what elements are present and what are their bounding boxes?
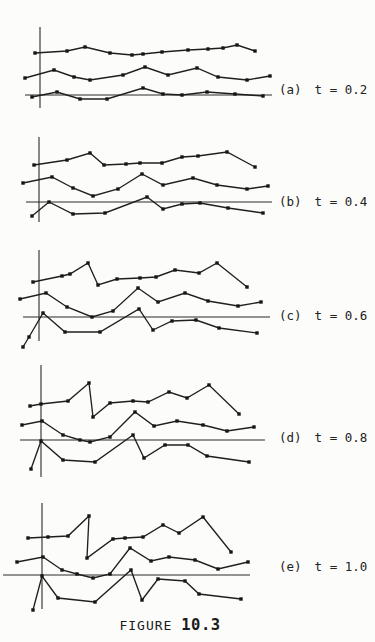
data-point-marker xyxy=(226,206,229,209)
panel-label-d: (d)t = 0.8 xyxy=(279,429,367,446)
data-point-marker xyxy=(207,383,210,386)
panel-a xyxy=(23,27,272,108)
data-point-marker xyxy=(26,536,29,539)
data-point-marker xyxy=(239,597,242,600)
data-point-marker xyxy=(91,194,94,197)
data-point-marker xyxy=(71,186,74,189)
data-point-marker xyxy=(173,268,176,271)
data-point-marker xyxy=(31,608,34,611)
data-point-marker xyxy=(237,412,240,415)
data-point-marker xyxy=(88,151,91,154)
data-point-marker xyxy=(259,300,262,303)
data-point-marker xyxy=(103,211,106,214)
data-point-marker xyxy=(216,567,219,570)
data-point-marker xyxy=(141,86,144,89)
panel-label-b: (b)t = 0.4 xyxy=(279,193,367,210)
data-point-marker xyxy=(52,68,55,71)
data-point-marker xyxy=(90,315,93,318)
data-point-marker xyxy=(206,299,209,302)
data-point-marker xyxy=(15,560,18,563)
sample-path-3-line xyxy=(32,88,263,99)
data-point-marker xyxy=(247,460,250,463)
data-point-marker xyxy=(167,390,170,393)
data-point-marker xyxy=(86,261,89,264)
data-point-marker xyxy=(93,600,96,603)
sample-path-2-line xyxy=(20,288,261,317)
data-point-marker xyxy=(245,187,248,190)
data-point-marker xyxy=(194,318,197,321)
panel-label-c: (c)t = 0.6 xyxy=(279,307,367,324)
data-point-marker xyxy=(160,161,163,164)
data-point-marker xyxy=(177,531,180,534)
data-point-marker xyxy=(233,92,236,95)
data-point-marker xyxy=(65,305,68,308)
data-point-marker xyxy=(23,76,26,79)
data-point-marker xyxy=(201,423,204,426)
data-point-marker xyxy=(191,176,194,179)
data-point-marker xyxy=(225,429,228,432)
data-point-marker xyxy=(21,345,24,348)
data-point-marker xyxy=(146,400,149,403)
data-point-marker xyxy=(61,433,64,436)
data-point-marker xyxy=(142,456,145,459)
panel-label-e: (e)t = 1.0 xyxy=(279,558,367,575)
data-point-marker xyxy=(235,43,238,46)
panel-tag-b: (b) xyxy=(279,194,302,209)
data-point-marker xyxy=(88,440,91,443)
sample-path-1-line xyxy=(33,263,247,287)
data-point-marker xyxy=(50,175,53,178)
data-point-marker xyxy=(137,307,140,310)
data-point-marker xyxy=(98,330,101,333)
data-point-marker xyxy=(41,555,44,558)
data-point-marker xyxy=(88,78,91,81)
data-point-marker xyxy=(268,74,271,77)
data-point-marker xyxy=(193,558,196,561)
panel-tag-a: (a) xyxy=(279,82,302,97)
data-point-marker xyxy=(160,50,163,53)
data-point-marker xyxy=(216,75,219,78)
data-point-marker xyxy=(131,399,134,402)
data-point-marker xyxy=(33,51,36,54)
data-point-marker xyxy=(27,335,30,338)
data-point-marker xyxy=(108,401,111,404)
panel-tag-c: (c) xyxy=(279,308,302,323)
data-point-marker xyxy=(246,560,249,563)
data-point-marker xyxy=(161,207,164,210)
data-point-marker xyxy=(143,65,146,68)
data-point-marker xyxy=(140,598,143,601)
data-point-marker xyxy=(266,184,269,187)
data-point-marker xyxy=(149,559,152,562)
data-point-marker xyxy=(60,274,63,277)
data-point-marker xyxy=(156,300,159,303)
data-point-marker xyxy=(83,45,86,48)
panel-c xyxy=(18,250,270,349)
figure-page: (a)t = 0.2 (b)t = 0.4 (c)t = 0.6 (d)t = … xyxy=(0,0,375,642)
data-point-marker xyxy=(63,330,66,333)
data-point-marker xyxy=(108,435,111,438)
data-point-marker xyxy=(186,48,189,51)
data-point-marker xyxy=(195,66,198,69)
data-point-marker xyxy=(111,537,114,540)
data-point-marker xyxy=(170,319,173,322)
data-point-marker xyxy=(72,75,75,78)
panel-t-value-c: t = 0.6 xyxy=(315,308,368,323)
data-point-marker xyxy=(253,165,256,168)
data-point-marker xyxy=(115,277,118,280)
sample-path-3-line xyxy=(33,570,241,610)
data-point-marker xyxy=(180,155,183,158)
data-point-marker xyxy=(66,399,69,402)
data-point-marker xyxy=(32,163,35,166)
data-point-marker xyxy=(78,97,81,100)
data-point-marker xyxy=(205,454,208,457)
data-point-marker xyxy=(252,425,255,428)
data-point-marker xyxy=(66,534,69,537)
panel-t-value-d: t = 0.8 xyxy=(315,430,368,445)
panel-b xyxy=(21,137,272,222)
data-point-marker xyxy=(136,286,139,289)
data-point-marker xyxy=(151,328,154,331)
data-point-marker xyxy=(56,596,59,599)
data-point-marker xyxy=(161,183,164,186)
panel-d xyxy=(20,365,265,477)
panel-t-value-e: t = 1.0 xyxy=(315,559,368,574)
data-point-marker xyxy=(166,73,169,76)
